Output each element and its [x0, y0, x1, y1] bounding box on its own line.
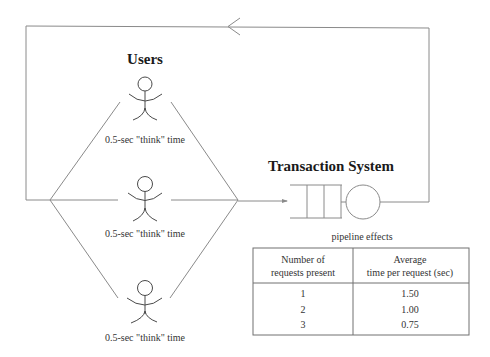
stick-figure-icon	[128, 177, 162, 222]
cell-time: 1.50	[401, 288, 419, 299]
user-figure-2: 0.5-sec "think" time	[105, 177, 186, 240]
feedback-arrow-icon	[228, 18, 240, 35]
feedback-path	[26, 26, 429, 202]
arrowhead-icon	[282, 199, 288, 203]
cell-time: 0.75	[401, 319, 419, 330]
queue-buffer-icon	[290, 185, 346, 218]
cell-requests: 3	[301, 319, 306, 330]
header-time-line1: Average	[393, 254, 427, 265]
think-time-label: 0.5-sec "think" time	[105, 228, 186, 239]
cell-requests: 2	[301, 304, 306, 315]
table-row: 1 1.50	[301, 288, 419, 299]
header-requests-line2: requests present	[271, 267, 335, 278]
users-title: Users	[127, 51, 163, 67]
transaction-system-title: Transaction System	[268, 158, 394, 174]
stick-figure-icon	[129, 77, 162, 120]
user-figure-3: 0.5-sec "think" time	[105, 281, 186, 344]
think-time-label: 0.5-sec "think" time	[105, 134, 186, 145]
server-circle-icon	[346, 185, 380, 219]
transaction-queue: pipeline effects	[290, 185, 393, 242]
stick-figure-icon	[127, 281, 162, 324]
table-row: 2 1.00	[301, 304, 419, 315]
closed-system-diagram: Users Transaction System 0.5-sec "think"…	[0, 0, 490, 357]
feedback-loop	[26, 18, 429, 202]
user-figure-1: 0.5-sec "think" time	[105, 77, 186, 145]
header-time-line2: time per request (sec)	[367, 267, 453, 279]
response-time-table: Number of requests present Average time …	[253, 248, 469, 335]
think-time-label: 0.5-sec "think" time	[105, 332, 186, 343]
request-arrow	[238, 199, 288, 203]
table-row: 3 0.75	[301, 319, 419, 330]
pipeline-caption: pipeline effects	[331, 231, 392, 242]
cell-time: 1.00	[401, 304, 419, 315]
header-requests-line1: Number of	[281, 254, 325, 265]
cell-requests: 1	[301, 288, 306, 299]
